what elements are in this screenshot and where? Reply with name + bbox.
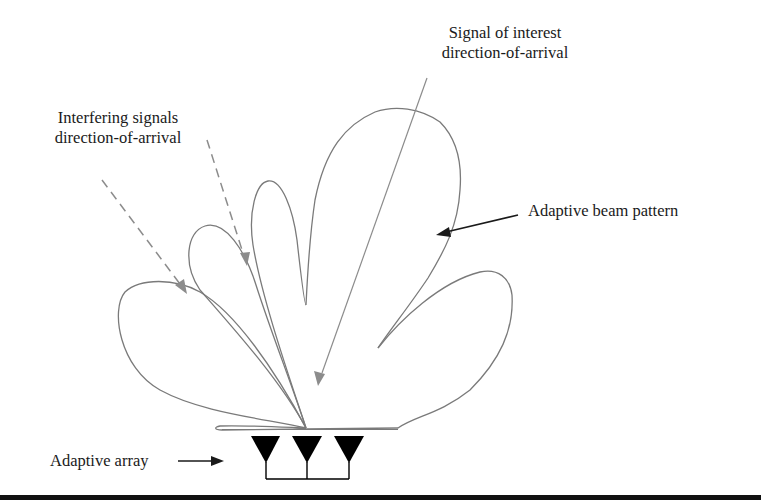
array-label: Adaptive array (50, 451, 149, 471)
bottom-rule (0, 495, 761, 500)
main-lobe (306, 108, 460, 348)
adaptive-beam-pattern (118, 108, 512, 430)
interfering-signals-label: Interfering signals direction-of-arrival (28, 108, 208, 148)
signal-of-interest-label-line1: Signal of interest (405, 23, 605, 43)
array-arrowhead (211, 456, 224, 466)
interferer-arrow-2 (207, 140, 243, 253)
interfering-signals-label-line2: direction-of-arrival (28, 128, 208, 148)
pointer-arrowhead (436, 227, 451, 237)
beam-pattern-label: Adaptive beam pattern (528, 201, 678, 221)
antenna-element-3 (334, 436, 364, 463)
interfering-signals-label-line1: Interfering signals (28, 108, 208, 128)
signal-of-interest-label: Signal of interest direction-of-arrival (405, 23, 605, 63)
antenna-element-1 (251, 436, 280, 463)
array-pointer (178, 456, 224, 466)
interfering-signal-arrows (102, 140, 250, 294)
interferer-arrowhead-1 (175, 279, 187, 294)
adaptive-array (251, 436, 364, 479)
signal-of-interest-arrow (314, 78, 427, 386)
beamforming-diagram (0, 0, 761, 504)
signal-of-interest-label-line2: direction-of-arrival (405, 43, 605, 63)
beam-pattern-pointer (436, 215, 518, 237)
array-feed-network (266, 462, 349, 479)
side-lobe-third (251, 181, 306, 428)
interferer-arrow-1 (102, 180, 180, 284)
antenna-element-2 (292, 436, 322, 463)
soi-arrowhead (314, 371, 325, 386)
side-lobe-right (306, 271, 512, 429)
